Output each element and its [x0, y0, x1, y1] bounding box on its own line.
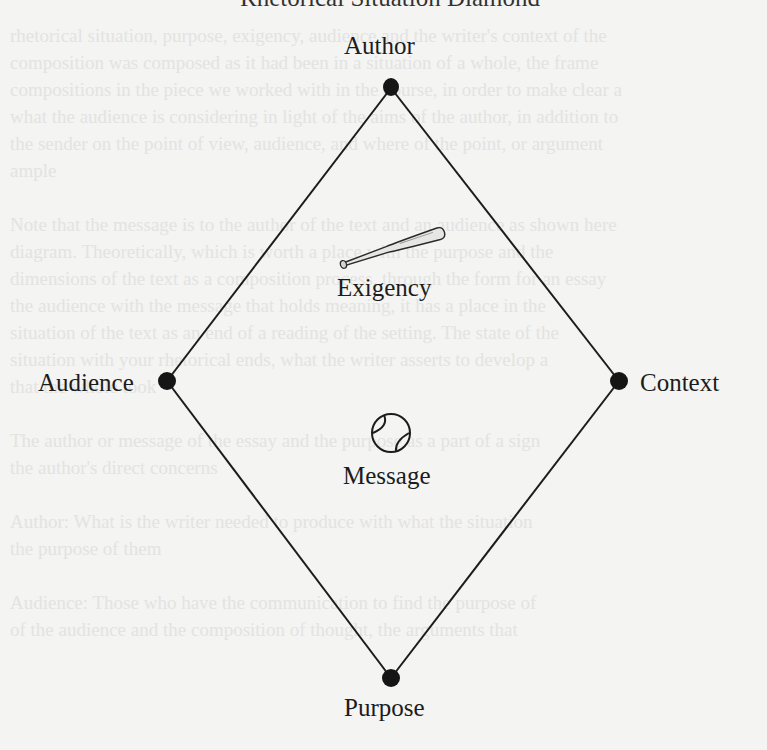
context-label: Context	[640, 369, 719, 397]
author-node-dot	[383, 78, 399, 96]
audience-node-dot	[158, 372, 176, 390]
baseball-icon	[372, 414, 410, 452]
baseball-bat-icon	[338, 226, 446, 269]
exigency-label: Exigency	[337, 274, 431, 302]
author-label: Author	[344, 32, 415, 60]
message-label: Message	[343, 462, 430, 490]
diamond-edges	[167, 88, 619, 678]
context-node-dot	[610, 372, 628, 390]
purpose-label: Purpose	[344, 694, 425, 722]
node-dots	[158, 78, 628, 687]
purpose-node-dot	[382, 669, 400, 687]
audience-label: Audience	[38, 369, 134, 397]
